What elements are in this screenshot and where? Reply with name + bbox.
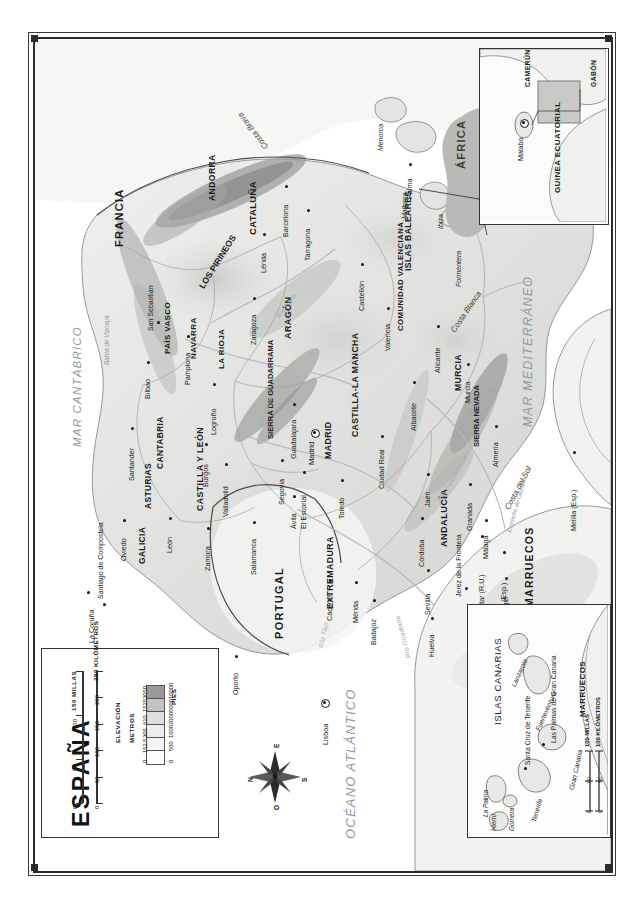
elevation-feet-2: 2000 (168, 712, 174, 725)
elevation-col-meters: METROS (128, 713, 135, 743)
elevation-meters-2: 610 (142, 715, 148, 725)
scale-label-km-50: 50 (94, 776, 100, 783)
map-page: MAR CANTÁBRICO OCÉANO ATLÁNTICO MAR MEDI… (0, 0, 643, 906)
elevation-swatch-5 (146, 750, 165, 765)
elevation-feet-0: 10000 (168, 683, 174, 699)
elevation-feet-1: 5000 (168, 699, 174, 712)
scale-unit-miles: 150 MILLAS (70, 671, 77, 711)
elevation-meters-4: 152.5 (142, 738, 148, 753)
islas-canarias-inset: ISLAS CANARIAS Lanzarote Fuerteventura G… (467, 604, 611, 838)
scale-label-miles-50: 50 (72, 764, 78, 771)
elevation-meters-1: 1525 (142, 699, 148, 712)
scale-tick (76, 803, 83, 804)
scale-tick (76, 671, 83, 672)
capital-marker-lisboa (321, 699, 330, 708)
scale-label-miles-100: 100 (72, 719, 78, 729)
scale-label-miles-0: 0 (72, 806, 78, 809)
elevation-meters-0: 3050 (142, 686, 148, 699)
scale-tick (96, 803, 103, 804)
scale-bar-miles (82, 671, 84, 803)
scale-unit-km: 250 KILÓMETROS (92, 621, 99, 681)
compass-label-n: N (247, 777, 254, 782)
compass-label-e: E (273, 744, 280, 748)
elevation-feet-3: 1000 (168, 725, 174, 738)
capital-marker-madrid (311, 429, 320, 438)
frame-corner-bl (31, 864, 38, 871)
elevation-feet-5: 0 (168, 760, 174, 763)
frame-corner-br (605, 864, 612, 871)
compass-label-s: S (301, 778, 308, 782)
frame-corner-tl (31, 35, 38, 42)
elevation-feet-4: 500 (168, 741, 174, 751)
scale-label-km-0: 0 (94, 806, 100, 809)
guinea-ecuatorial-inset: Malabo GUINEA ECUATORIAL CAMERÚN GABÓN (479, 48, 609, 225)
compass-rose: E O N S (238, 738, 312, 816)
capital-marker-malabo (520, 119, 529, 128)
frame-corner-tr (605, 35, 612, 42)
scale-tick (76, 715, 83, 716)
elevation-meters-5: 0 (142, 760, 148, 763)
elevation-header: ELEVACIÓN (114, 702, 121, 743)
elevation-meters-3: 305 (142, 728, 148, 738)
scale-label-km-100: 100 (94, 747, 100, 757)
scale-bar-km (96, 671, 98, 803)
title-legend-box: ESPAÑA 0 50 100 150 MILLAS 0 50 100 150 … (41, 648, 219, 838)
canarias-inset-map (468, 605, 608, 835)
scale-label-km-200: 200 (94, 695, 100, 705)
guinea-inset-map (480, 49, 606, 222)
compass-label-o: O (273, 805, 280, 810)
scale-tick (76, 759, 83, 760)
scale-label-km-150: 150 (94, 721, 100, 731)
